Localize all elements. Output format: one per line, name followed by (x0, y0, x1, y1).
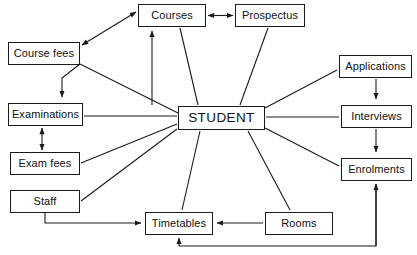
node-course-fees[interactable]: Course fees (8, 42, 80, 65)
node-label-course-fees: Course fees (14, 48, 74, 59)
node-label-student: STUDENT (188, 111, 255, 125)
node-applications[interactable]: Applications (339, 55, 412, 78)
node-exam-fees[interactable]: Exam fees (10, 152, 80, 175)
node-label-staff: Staff (34, 196, 57, 207)
node-label-prospectus: Prospectus (242, 10, 298, 21)
node-label-courses: Courses (151, 10, 193, 21)
node-prospectus[interactable]: Prospectus (235, 4, 305, 27)
context-diagram: Courses Prospectus Course fees Applicati… (0, 0, 417, 255)
node-label-exam-fees: Exam fees (19, 158, 72, 169)
node-staff[interactable]: Staff (10, 190, 80, 213)
node-examinations[interactable]: Examinations (8, 103, 83, 126)
node-label-rooms: Rooms (281, 218, 316, 229)
node-label-interviews: Interviews (351, 111, 402, 122)
node-label-applications: Applications (345, 61, 406, 72)
node-student[interactable]: STUDENT (178, 106, 265, 130)
node-rooms[interactable]: Rooms (265, 212, 333, 235)
node-label-examinations: Examinations (12, 109, 79, 120)
node-enrolments[interactable]: Enrolments (341, 158, 412, 181)
node-label-timetables: Timetables (152, 218, 206, 229)
node-timetables[interactable]: Timetables (145, 212, 213, 235)
node-layer: Courses Prospectus Course fees Applicati… (0, 0, 417, 255)
node-interviews[interactable]: Interviews (341, 105, 412, 128)
node-label-enrolments: Enrolments (348, 164, 405, 175)
node-courses[interactable]: Courses (138, 4, 206, 27)
